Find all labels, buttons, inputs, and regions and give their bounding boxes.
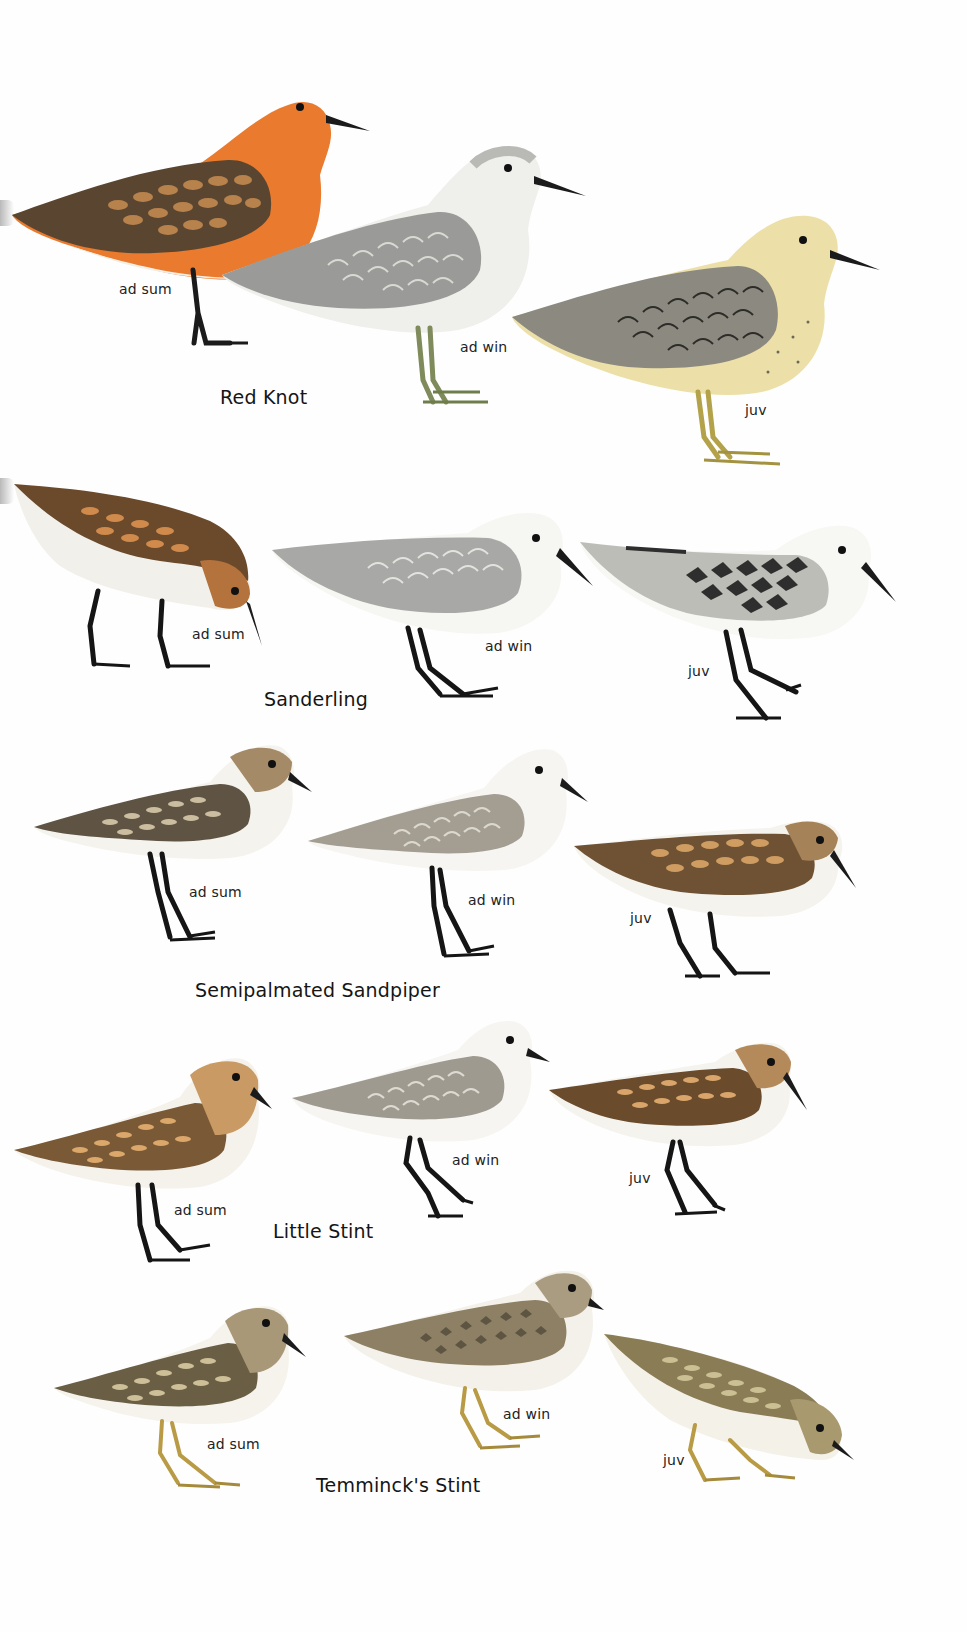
age-label: ad win xyxy=(460,339,507,355)
age-label: juv xyxy=(745,402,767,418)
species-title: Little Stint xyxy=(273,1220,373,1242)
age-label: ad win xyxy=(503,1406,550,1422)
age-label: juv xyxy=(688,663,710,679)
red-knot-juv-illustration xyxy=(508,212,883,482)
species-title: Red Knot xyxy=(220,386,307,408)
semipalmated-sandpiper-ad-win-illustration xyxy=(304,746,594,966)
age-label: juv xyxy=(663,1452,685,1468)
age-label: ad sum xyxy=(189,884,242,900)
sanderling-juv-illustration xyxy=(576,520,901,725)
temmincks-stint-ad-win-illustration xyxy=(340,1268,605,1468)
species-title: Semipalmated Sandpiper xyxy=(195,979,440,1001)
age-label: ad win xyxy=(485,638,532,654)
age-label: ad sum xyxy=(119,281,172,297)
age-label: juv xyxy=(629,1170,651,1186)
temmincks-stint-ad-sum-illustration xyxy=(50,1303,310,1498)
little-stint-ad-sum-illustration xyxy=(10,1055,275,1270)
little-stint-ad-win-illustration xyxy=(288,1018,553,1223)
temmincks-stint-juv-illustration xyxy=(600,1330,860,1490)
semipalmated-sandpiper-juv-illustration xyxy=(570,818,860,983)
age-label: ad win xyxy=(452,1152,499,1168)
little-stint-juv-illustration xyxy=(545,1040,810,1220)
sanderling-ad-win-illustration xyxy=(268,508,598,708)
age-label: ad sum xyxy=(207,1436,260,1452)
age-label: ad win xyxy=(468,892,515,908)
species-title: Temminck's Stint xyxy=(316,1474,481,1496)
species-title: Sanderling xyxy=(264,688,368,710)
age-label: juv xyxy=(630,910,652,926)
semipalmated-sandpiper-ad-sum-illustration xyxy=(30,742,315,952)
age-label: ad sum xyxy=(174,1202,227,1218)
field-guide-plate: ad sum ad win xyxy=(0,0,967,1632)
age-label: ad sum xyxy=(192,626,245,642)
sanderling-ad-sum-illustration xyxy=(10,476,270,676)
